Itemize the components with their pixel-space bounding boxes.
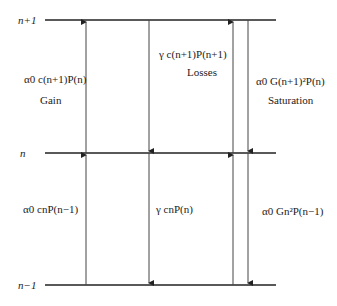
level-label-middle: n [20, 148, 26, 159]
level-label-top: n+1 [18, 15, 36, 26]
gain-label: Gain [40, 95, 61, 106]
losses-label: Losses [187, 67, 217, 78]
gain-formula-lower: α0 cnP(n−1) [23, 204, 78, 215]
level-diagram [0, 0, 337, 306]
saturation-formula-upper: α0 G(n+1)²P(n) [256, 76, 325, 87]
level-label-bottom: n−1 [18, 280, 36, 291]
losses-formula-upper: γ c(n+1)P(n+1) [159, 49, 227, 60]
saturation-formula-lower: α0 Gn²P(n−1) [262, 206, 323, 217]
gain-formula-upper: α0 c(n+1)P(n) [24, 74, 86, 85]
saturation-label: Saturation [268, 95, 313, 106]
losses-formula-lower: γ cnP(n) [156, 204, 193, 215]
